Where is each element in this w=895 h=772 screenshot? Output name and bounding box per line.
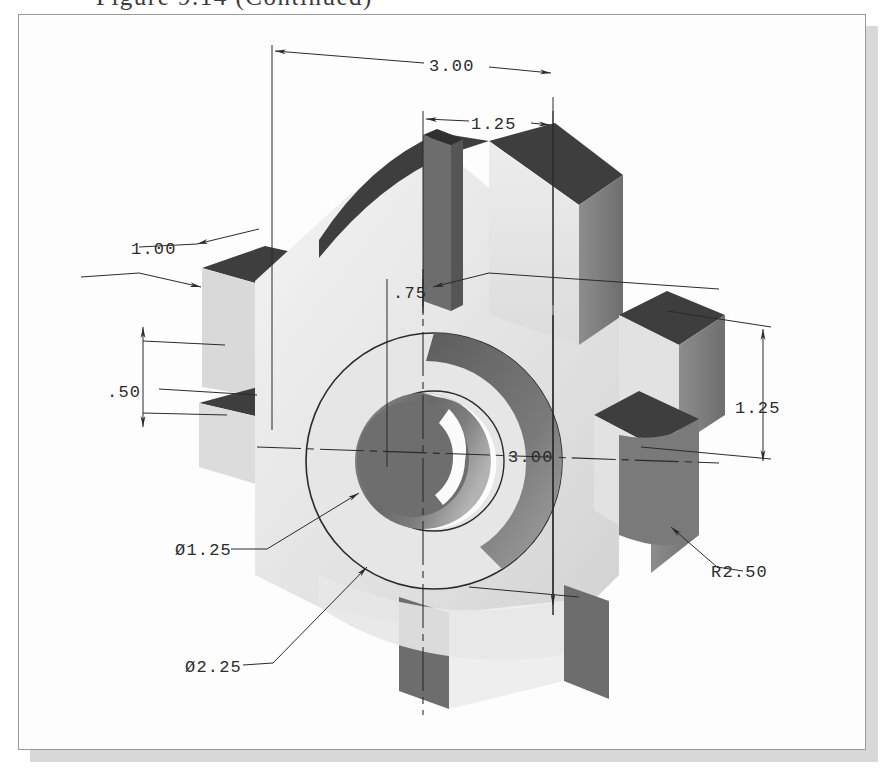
dim-label-overall-depth: 3.00 [508, 448, 554, 467]
lobe-left-lower-front [199, 403, 259, 485]
dim-label-lobe-height-left: .50 [107, 383, 141, 402]
dim-leader-100-upper [197, 229, 259, 244]
dim-label-lobe-radius: R2.50 [711, 563, 768, 582]
dim-label-lobe-width-right: 1.25 [735, 399, 781, 418]
dim-line-100-lower [81, 273, 139, 277]
figure-caption-strip: Figure 9.14 (Continued) [0, 0, 895, 14]
dim-label-overall-width: 3.00 [429, 57, 475, 76]
dim-shelf-hub [243, 663, 273, 665]
dim-label-bore-diameter: Ø1.25 [175, 541, 232, 560]
part-solid [199, 123, 725, 709]
lobe-right-lower-curve [619, 419, 699, 545]
top-slot-back-wall [451, 139, 463, 311]
dim-label-hub-diameter: Ø2.25 [185, 658, 242, 677]
dim-label-hub-projection: .75 [393, 284, 427, 303]
dim-line-lobe-top-b [531, 123, 550, 125]
dimension-overall-width: 3.00 [275, 51, 551, 76]
dim-line-overall-b [489, 67, 551, 73]
dim-leader-100-lower [139, 273, 201, 287]
dim-label-lobe-width-top: 1.25 [471, 115, 517, 134]
isometric-part-drawing: 3.00 1.25 1.00 .75 [19, 15, 865, 749]
dim-line-lobe-top-a [426, 119, 469, 121]
lobe-left-front-face [202, 268, 259, 397]
bottom-slot-right-block [564, 585, 609, 699]
screenshot-page: Figure 9.14 (Continued) [0, 0, 895, 772]
dim-label-lobe-thickness-left: 1.00 [131, 240, 177, 259]
dim-line-overall-a [275, 51, 424, 63]
drawing-sheet: 3.00 1.25 1.00 .75 [18, 14, 866, 750]
figure-caption: Figure 9.14 (Continued) [96, 0, 373, 11]
